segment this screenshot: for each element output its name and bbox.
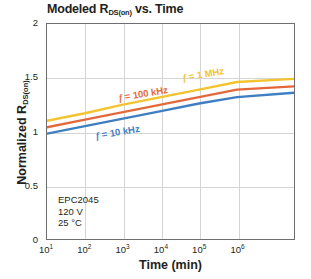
x-tick-label: 101 bbox=[39, 243, 53, 255]
x-tick-label: 106 bbox=[230, 243, 244, 255]
annotation-line: 120 V bbox=[58, 206, 99, 218]
annotation-line: EPC2045 bbox=[58, 194, 99, 206]
series-line bbox=[47, 86, 294, 127]
chart-figure: Modeled RDS(on) vs. Time Normalized RDS(… bbox=[0, 0, 311, 279]
annotation-block: EPC2045120 V25 °C bbox=[58, 194, 99, 229]
x-tick-label: 103 bbox=[116, 243, 130, 255]
x-tick-label: 105 bbox=[192, 243, 206, 255]
series-line bbox=[47, 79, 294, 121]
annotation-line: 25 °C bbox=[58, 217, 99, 229]
x-tick-label: 102 bbox=[77, 243, 91, 255]
x-tick-label: 104 bbox=[154, 243, 168, 255]
